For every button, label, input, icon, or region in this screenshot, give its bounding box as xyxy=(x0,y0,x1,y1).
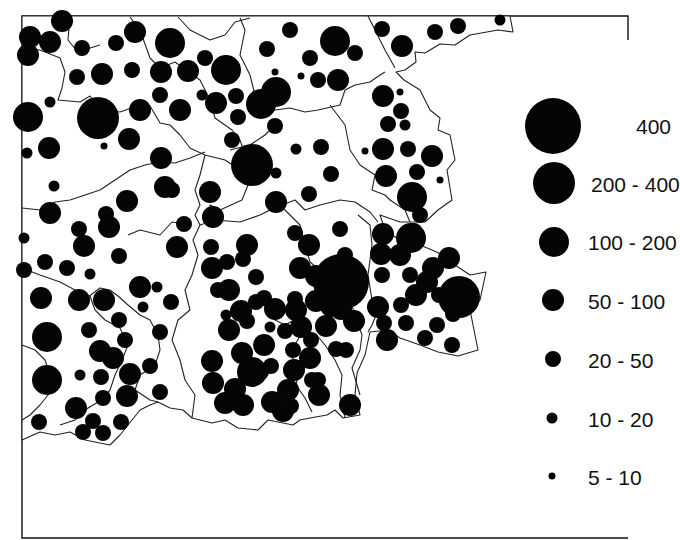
settlement-symbol xyxy=(202,372,224,394)
settlement-symbol xyxy=(253,334,275,356)
settlement-symbol xyxy=(376,329,398,351)
settlement-symbol xyxy=(164,182,180,198)
legend-label-100-200: 100 - 200 xyxy=(588,231,677,254)
settlement-symbol xyxy=(108,35,124,51)
settlement-symbol xyxy=(283,398,299,414)
settlement-symbol xyxy=(102,347,124,369)
settlement-symbol xyxy=(267,118,283,134)
legend-symbol-100-200 xyxy=(539,227,569,257)
settlement-symbol xyxy=(119,363,141,385)
settlement-symbol xyxy=(152,282,163,293)
settlement-symbol xyxy=(95,425,111,441)
settlement-symbol xyxy=(259,41,275,57)
settlement-symbol xyxy=(16,262,32,278)
settlement-symbol xyxy=(49,181,60,192)
settlement-symbol xyxy=(402,267,418,283)
legend-label-20-50: 20 - 50 xyxy=(588,349,653,372)
settlement-symbol xyxy=(380,116,396,132)
settlement-symbol xyxy=(272,69,279,76)
settlement-symbol xyxy=(427,24,443,40)
settlement-symbol xyxy=(169,99,191,121)
settlement-symbol xyxy=(91,63,113,85)
settlement-symbol xyxy=(45,97,56,108)
settlement-symbol xyxy=(13,102,43,132)
settlement-symbol xyxy=(397,89,404,96)
settlement-symbol xyxy=(32,322,62,352)
settlement-symbol xyxy=(231,144,273,186)
settlement-symbol xyxy=(218,319,240,341)
settlement-symbol xyxy=(201,350,223,372)
settlement-symbol xyxy=(85,269,96,280)
settlement-symbol xyxy=(152,324,168,340)
legend-symbol-200-400 xyxy=(533,162,575,204)
settlement-symbol xyxy=(248,294,264,310)
settlement-symbol xyxy=(450,18,466,34)
legend-symbol-5-10 xyxy=(549,473,556,480)
settlement-symbol xyxy=(417,330,433,346)
settlement-symbol xyxy=(77,97,119,139)
settlement-symbol xyxy=(285,342,301,358)
settlement-symbol xyxy=(205,92,227,114)
settlement-symbol xyxy=(228,88,244,104)
settlement-symbol xyxy=(101,143,108,150)
settlement-symbol xyxy=(416,271,438,293)
settlement-symbol xyxy=(75,424,91,440)
settlement-symbol xyxy=(374,21,390,37)
settlement-symbol xyxy=(271,168,282,179)
settlement-symbol xyxy=(117,332,133,348)
settlement-symbol xyxy=(265,191,287,213)
legend-label-400: 400 xyxy=(636,115,671,138)
settlement-symbol xyxy=(301,186,317,202)
settlement-symbol xyxy=(412,207,428,223)
settlement-symbol xyxy=(197,50,213,66)
settlement-symbol xyxy=(438,276,480,318)
settlement-symbol xyxy=(237,357,267,387)
settlement-symbol xyxy=(116,385,138,407)
settlement-symbol xyxy=(438,247,460,269)
legend-symbol-20-50 xyxy=(545,351,561,367)
settlement-symbol xyxy=(339,394,361,416)
settlement-symbol xyxy=(73,235,95,257)
settlement-symbol xyxy=(323,166,339,182)
settlement-symbol xyxy=(400,120,411,131)
settlement-symbol xyxy=(129,276,151,298)
settlement-symbol xyxy=(248,269,264,285)
settlement-symbol xyxy=(98,216,120,238)
settlement-symbol xyxy=(74,40,90,56)
settlement-symbol xyxy=(65,397,87,419)
settlement-symbol xyxy=(310,72,326,88)
settlement-symbol xyxy=(81,322,97,338)
settlement-symbol xyxy=(362,148,369,155)
settlement-symbol xyxy=(124,62,140,78)
settlement-symbol xyxy=(302,50,318,66)
dot-map: 400 200 - 400 100 - 200 50 - 100 20 - 50… xyxy=(0,0,680,540)
settlement-symbol xyxy=(116,190,138,212)
settlement-symbol xyxy=(68,289,90,311)
settlement-symbol xyxy=(218,279,240,301)
legend-label-50-100: 50 - 100 xyxy=(588,290,665,313)
settlement-symbol xyxy=(71,221,87,237)
settlement-symbol xyxy=(372,223,394,245)
settlement-symbol xyxy=(37,254,53,270)
legend-label-200-400: 200 - 400 xyxy=(591,173,680,196)
settlement-symbol xyxy=(32,365,62,395)
settlement-symbol xyxy=(59,260,75,276)
settlement-symbol xyxy=(367,296,389,318)
settlement-symbol xyxy=(75,370,86,381)
legend-label-10-20: 10 - 20 xyxy=(588,408,653,431)
settlement-symbol xyxy=(391,35,413,57)
settlement-symbol xyxy=(376,315,392,331)
settlement-symbol xyxy=(263,358,279,374)
settlement-symbol xyxy=(239,313,255,329)
settlement-symbol xyxy=(19,233,30,244)
settlement-symbol xyxy=(291,144,302,155)
settlement-symbol xyxy=(199,181,221,203)
settlement-symbol xyxy=(166,236,188,258)
legend-symbol-10-20 xyxy=(547,413,558,424)
settlement-symbol xyxy=(31,414,47,430)
settlement-symbol xyxy=(409,164,425,180)
settlement-symbol xyxy=(298,73,305,80)
settlement-symbol xyxy=(421,145,443,167)
settlement-symbol xyxy=(315,315,337,337)
settlement-symbol xyxy=(214,392,236,414)
